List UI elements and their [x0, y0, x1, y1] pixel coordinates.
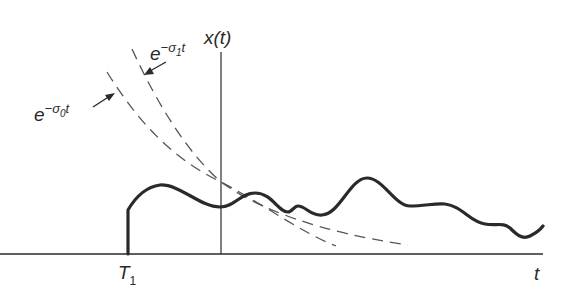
step-time-label: T1: [118, 262, 137, 288]
envelope-sigma1-curve: [132, 49, 408, 245]
signal-curve: [128, 178, 543, 254]
envelope-sigma0-label: e−σ0t: [34, 101, 71, 125]
x-axis-label: t: [534, 263, 540, 284]
arrow-sigma0: [93, 93, 115, 107]
signal-diagram: x(t) e−σ1t e−σ0t T1 t: [0, 0, 577, 308]
envelope-sigma1-label: e−σ1t: [150, 40, 187, 64]
y-axis-label: x(t): [203, 27, 231, 48]
